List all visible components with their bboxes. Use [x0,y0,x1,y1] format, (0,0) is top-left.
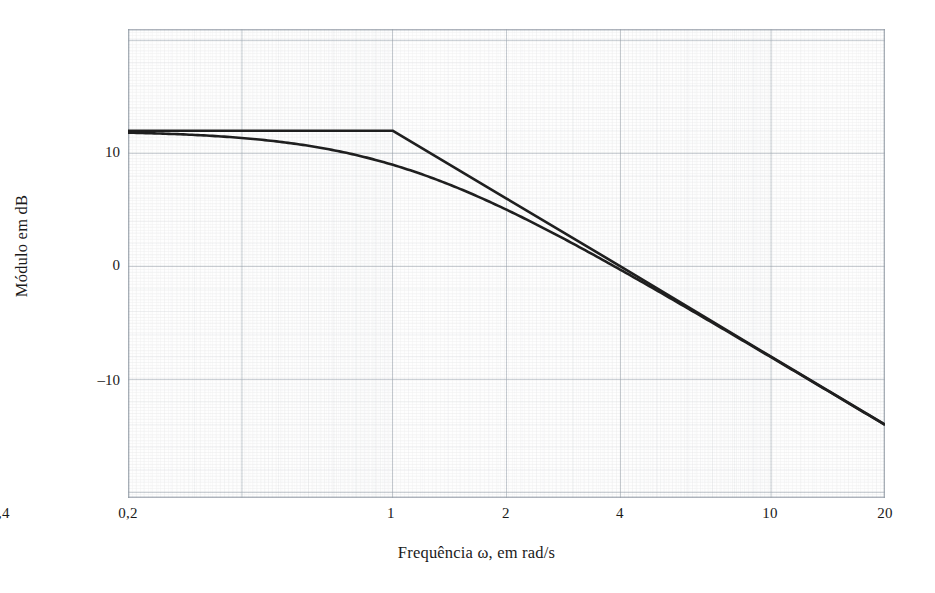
y-tick-10: 10 [105,144,120,161]
y-tick-0: 0 [113,257,121,274]
x-tick-4: 4 [616,505,624,522]
x-tick-1: 1 [387,505,395,522]
figure-canvas: Módulo em dB 10 0 –10 0,2 0,4 1 2 4 10 2… [0,0,935,593]
x-tick-2: 2 [502,505,510,522]
plot-area [128,29,885,498]
x-tick-20: 20 [877,505,893,522]
data-curves [128,29,885,498]
graph-paper-grid [128,29,885,498]
y-tick-neg10: –10 [98,372,121,389]
x-tick-0p2: 0,2 [118,505,138,522]
y-axis-tick-labels: 10 0 –10 [0,0,120,593]
x-tick-10: 10 [762,505,778,522]
x-axis-label: Frequência ω, em rad/s [0,543,935,563]
x-tick-0p4: 0,4 [0,505,10,522]
actual-curve-path [128,133,885,425]
asymptote-polyline [128,131,885,425]
